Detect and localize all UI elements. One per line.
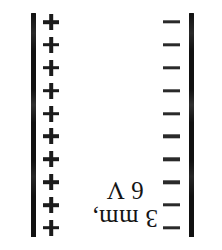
figure-caption: 3 mm, 6 V: [73, 176, 177, 232]
plus-sign-icon: [42, 59, 60, 77]
left-electrode-plate: [31, 13, 36, 237]
caption-separation-label: 3 mm,: [73, 204, 177, 232]
caption-voltage-label: 6 V: [73, 176, 177, 204]
right-electrode-plate: [189, 13, 194, 237]
plus-sign-icon: [42, 150, 60, 168]
plus-sign-icon: [42, 219, 60, 237]
plus-sign-icon: [42, 36, 60, 54]
minus-sign-icon: [163, 13, 181, 31]
capacitor-figure: 3 mm, 6 V: [0, 0, 222, 250]
plus-sign-icon: [42, 173, 60, 191]
plus-sign-icon: [42, 82, 60, 100]
plus-sign-icon: [42, 105, 60, 123]
minus-sign-icon: [163, 82, 181, 100]
plus-sign-icon: [42, 196, 60, 214]
positive-charge-column: [38, 13, 64, 237]
minus-sign-icon: [163, 59, 181, 77]
plus-sign-icon: [42, 127, 60, 145]
minus-sign-icon: [163, 127, 181, 145]
minus-sign-icon: [163, 150, 181, 168]
minus-sign-icon: [163, 105, 181, 123]
minus-sign-icon: [163, 36, 181, 54]
plus-sign-icon: [42, 13, 60, 31]
